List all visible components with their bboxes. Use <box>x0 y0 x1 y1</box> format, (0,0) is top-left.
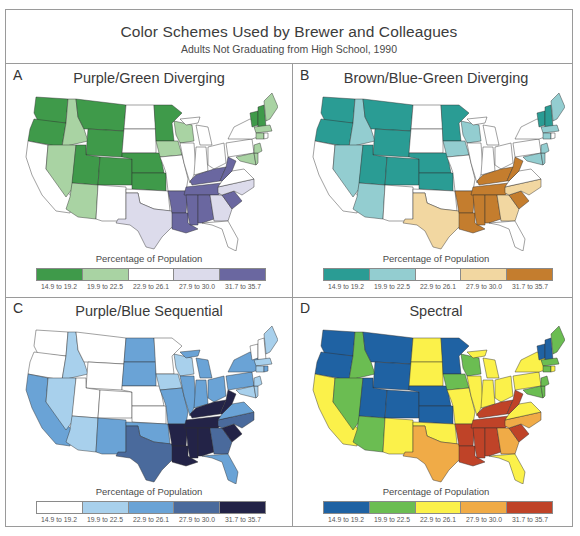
legend-swatch <box>83 269 129 280</box>
legend-tick-label: 31.7 to 35.7 <box>220 516 266 523</box>
legend-tick-label: 22.9 to 26.1 <box>128 283 174 290</box>
state-nm <box>383 185 413 221</box>
state-ia <box>443 141 469 157</box>
legend-swatch <box>220 502 265 513</box>
state-in <box>481 147 495 175</box>
legend-tick-label: 27.9 to 30.0 <box>461 516 507 523</box>
legend-tick-label: 14.9 to 19.2 <box>36 516 82 523</box>
state-in <box>194 147 208 175</box>
legend-swatch <box>461 502 507 513</box>
legend-tick-label: 31.7 to 35.7 <box>220 283 266 290</box>
legend-tick-label: 14.9 to 19.2 <box>36 283 82 290</box>
us-choropleth-map <box>309 91 565 251</box>
legend-tick-label: 14.9 to 19.2 <box>323 516 369 523</box>
figure-header: Color Schemes Used by Brewer and Colleag… <box>6 10 572 64</box>
legend-swatches <box>323 268 553 281</box>
state-me <box>264 326 278 354</box>
legend-tick-label: 31.7 to 35.7 <box>507 516 553 523</box>
panel-d: D Spectral Percentage of Population 14.9… <box>293 298 579 531</box>
state-ks <box>419 173 453 191</box>
legend-title: Percentage of Population <box>6 486 292 497</box>
state-ct <box>543 133 551 139</box>
legend-tick-label: 19.9 to 22.5 <box>82 283 128 290</box>
legend-tick-label: 19.9 to 22.5 <box>369 516 415 523</box>
state-mt <box>363 332 413 364</box>
state-co <box>98 157 132 185</box>
state-sd <box>409 362 443 386</box>
legend-swatches <box>36 501 266 514</box>
legend-swatch <box>416 502 462 513</box>
state-ct <box>256 133 264 139</box>
state-mt <box>76 99 126 131</box>
state-nj <box>541 376 549 386</box>
panel-b: B Brown/Blue-Green Diverging Percentage … <box>293 65 579 298</box>
state-nj <box>254 376 262 386</box>
legend-tick-label: 31.7 to 35.7 <box>507 283 553 290</box>
state-nj <box>254 143 262 153</box>
figure-frame: Color Schemes Used by Brewer and Colleag… <box>5 9 573 527</box>
state-fl <box>489 454 525 484</box>
legend-swatch <box>416 269 462 280</box>
state-co <box>385 390 419 418</box>
state-mt <box>76 332 126 364</box>
legend-tick-labels: 14.9 to 19.219.9 to 22.522.9 to 26.127.9… <box>323 516 553 523</box>
state-ks <box>419 406 453 424</box>
legend-tick-label: 22.9 to 26.1 <box>128 516 174 523</box>
legend-tick-label: 22.9 to 26.1 <box>415 283 461 290</box>
legend-tick-label: 22.9 to 26.1 <box>415 516 461 523</box>
legend-swatch <box>324 502 370 513</box>
state-ct <box>543 366 551 372</box>
legend-swatch <box>174 269 220 280</box>
state-ks <box>132 406 166 424</box>
state-fl <box>202 221 238 251</box>
state-mt <box>363 99 413 131</box>
panel-title: Purple/Blue Sequential <box>6 303 292 319</box>
state-ri <box>264 133 268 139</box>
state-nm <box>96 418 126 454</box>
legend-swatch <box>324 269 370 280</box>
state-ia <box>156 374 182 390</box>
us-choropleth-map <box>22 91 278 251</box>
legend-swatch <box>174 502 220 513</box>
legend-tick-label: 19.9 to 22.5 <box>82 516 128 523</box>
state-co <box>385 157 419 185</box>
state-oh <box>208 376 226 402</box>
state-wa <box>321 330 355 356</box>
legend-swatch <box>507 269 552 280</box>
legend-tick-labels: 14.9 to 19.219.9 to 22.522.9 to 26.127.9… <box>323 283 553 290</box>
us-choropleth-map <box>309 324 565 484</box>
state-oh <box>495 143 513 169</box>
state-sd <box>122 362 156 386</box>
state-sd <box>409 129 443 153</box>
state-me <box>264 93 278 121</box>
state-wy <box>86 362 124 390</box>
state-nm <box>383 418 413 454</box>
state-me <box>551 93 565 121</box>
state-fl <box>202 454 238 484</box>
legend-swatch <box>129 269 175 280</box>
legend-swatch <box>37 269 83 280</box>
state-in <box>481 380 495 408</box>
panel-c: C Purple/Blue Sequential Percentage of P… <box>6 298 292 531</box>
legend-tick-label: 27.9 to 30.0 <box>461 283 507 290</box>
state-me <box>551 326 565 354</box>
panel-a: A Purple/Green Diverging Percentage of P… <box>6 65 292 298</box>
legend-swatch <box>220 269 265 280</box>
state-oh <box>495 376 513 402</box>
state-in <box>194 380 208 408</box>
legend-swatch <box>129 502 175 513</box>
legend-swatch <box>461 269 507 280</box>
legend-swatch <box>83 502 129 513</box>
figure-title: Color Schemes Used by Brewer and Colleag… <box>6 23 572 41</box>
legend-tick-label: 14.9 to 19.2 <box>323 283 369 290</box>
legend-tick-labels: 14.9 to 19.219.9 to 22.522.9 to 26.127.9… <box>36 283 266 290</box>
legend-swatch <box>370 502 416 513</box>
state-nd <box>411 338 443 362</box>
panel-title: Spectral <box>293 303 579 319</box>
panel-title: Purple/Green Diverging <box>6 70 292 86</box>
state-wy <box>86 129 124 157</box>
state-wa <box>321 97 355 123</box>
state-ri <box>551 366 555 372</box>
legend-tick-label: 19.9 to 22.5 <box>369 283 415 290</box>
legend-tick-labels: 14.9 to 19.219.9 to 22.522.9 to 26.127.9… <box>36 516 266 523</box>
